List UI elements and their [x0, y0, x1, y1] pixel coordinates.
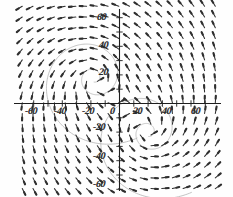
- x-tick-label-40: 40: [162, 105, 172, 116]
- x-tick-label-neg60: -60: [25, 105, 38, 116]
- plot-canvas: [0, 0, 233, 197]
- x-tick-label-neg20: -20: [82, 105, 95, 116]
- x-tick-label-origin: 0: [110, 105, 115, 116]
- x-tick-label-neg40: -40: [54, 105, 67, 116]
- scan-grain-overlay: [0, 0, 233, 197]
- x-tick-label-60: 60: [191, 105, 201, 116]
- x-tick-label-20: 20: [133, 105, 143, 116]
- y-tick-label-60: 60: [97, 11, 107, 22]
- y-tick-label-neg20: -20: [93, 121, 106, 132]
- y-tick-label-neg40: -40: [93, 150, 106, 161]
- vector-field-figure: 60 40 20 -20 -40 -60 -60 -40 -20 0 20 40…: [0, 0, 233, 197]
- y-tick-label-40: 40: [99, 39, 109, 50]
- y-tick-label-20: 20: [99, 66, 109, 77]
- y-tick-label-neg60: -60: [93, 178, 106, 189]
